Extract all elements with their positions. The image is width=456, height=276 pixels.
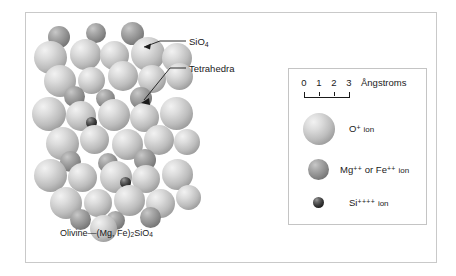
scale-bar-rule xyxy=(304,92,350,98)
scale-tick-label-3: 3 xyxy=(344,77,354,88)
legend-box: 0 1 2 3 Ångstroms O+ ion Mg++ or Fe++ io… xyxy=(288,68,427,225)
oxygen-atom xyxy=(32,97,66,131)
scale-bar: 0 1 2 3 Ångstroms xyxy=(301,77,419,103)
scale-tick-1 xyxy=(319,92,320,96)
oxygen-atom xyxy=(160,97,193,130)
legend-entry-silicon: Si++++ ion xyxy=(289,197,428,213)
oxygen-sphere-swatch xyxy=(303,113,335,145)
oxygen-atom xyxy=(70,39,101,70)
oxygen-atom xyxy=(80,125,109,154)
figure-caption: Olivine—(Mg, Fe)2SiO4 xyxy=(60,228,153,238)
scale-tick-label-0: 0 xyxy=(299,77,309,88)
scale-unit-label: Ångstroms xyxy=(361,77,406,88)
scale-tick-2 xyxy=(334,92,335,96)
scale-tick-label-2: 2 xyxy=(329,77,339,88)
legend-entry-magnesium-iron: Mg++ or Fe++ ion xyxy=(289,159,428,183)
scale-tick-label-1: 1 xyxy=(314,77,324,88)
oxygen-atom xyxy=(108,61,138,91)
magnesium-iron-atom xyxy=(70,209,91,230)
magnesium-iron-label: Mg++ or Fe++ ion xyxy=(340,164,409,175)
magnesium-iron-atom xyxy=(140,207,161,228)
magnesium-iron-sphere-swatch xyxy=(308,159,329,180)
oxygen-atom xyxy=(98,99,130,131)
silicon-sphere-swatch xyxy=(313,197,324,208)
oxygen-atom xyxy=(176,185,201,210)
silicon-label: Si++++ ion xyxy=(349,197,389,208)
olivine-crystal-structure-figure: SiO4 Tetrahedra Olivine—(Mg, Fe)2SiO4 0 … xyxy=(0,0,456,276)
oxygen-atom xyxy=(174,129,200,155)
legend-entry-oxygen: O+ ion xyxy=(289,113,428,149)
oxygen-label: O+ ion xyxy=(349,123,374,134)
callout-label-tetrahedra: Tetrahedra xyxy=(189,63,234,74)
callout-label-sio4: SiO4 xyxy=(189,36,209,48)
